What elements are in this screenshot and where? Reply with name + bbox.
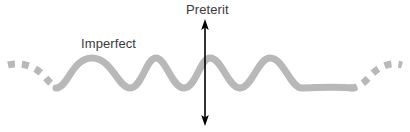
wave-dashed-tail-right — [350, 64, 402, 88]
preterit-label: Preterit — [186, 3, 229, 17]
diagram-canvas — [0, 0, 410, 132]
wave-dashed-tail-left — [8, 64, 60, 88]
preterit-double-arrow — [201, 19, 209, 126]
aspect-diagram: Preterit Imperfect — [0, 0, 410, 132]
imperfect-label: Imperfect — [81, 37, 136, 51]
